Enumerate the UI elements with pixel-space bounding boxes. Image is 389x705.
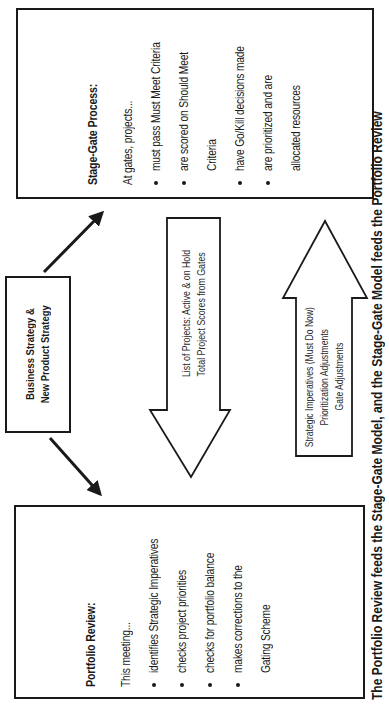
bullet-dot-icon [236, 683, 240, 687]
stage-gate-intro: At gates, projects... [119, 42, 137, 186]
portfolio-review-intro: This meeting... [117, 539, 135, 687]
business-strategy-line1: Business Strategy & [23, 309, 38, 401]
figure-caption: The Portfolio Review feeds the Stage-Gat… [367, 0, 389, 705]
bullet-dot-icon [180, 683, 184, 687]
portfolio-review-box: Portfolio Review: This meeting... identi… [14, 505, 365, 699]
stage-gate-bullet: must pass Must Meet Criteria [147, 10, 165, 185]
business-strategy-box: Business Strategy & New Product Strategy [5, 276, 71, 433]
up-arrow-line1: Strategic Imperatives (Must Do Now) [302, 307, 317, 447]
stage-gate-bullet: are prioritized and are allocated resour… [259, 10, 305, 185]
bullet-dot-icon [208, 683, 212, 687]
arrow-to-stage-gate-icon [44, 213, 102, 272]
up-arrow-line2: Prioritization Adjustments [317, 329, 332, 425]
down-arrow-line1: List of Projects: Active & on Hold [179, 250, 194, 377]
up-arrow-line3: Gate Adjustments [332, 343, 347, 411]
stage-gate-box: Stage-Gate Process: At gates, projects..… [16, 8, 374, 199]
bullet-dot-icon [266, 181, 270, 185]
portfolio-review-bullet: makes corrections to the Gating Scheme [229, 507, 275, 687]
stage-gate-bullet: have Go/Kill decisions made [231, 10, 249, 185]
up-arrow-label: Strategic Imperatives (Must Do Now) Prio… [296, 298, 352, 456]
bullet-dot-icon [152, 683, 156, 687]
bullet-dot-icon [182, 181, 186, 185]
bullet-dot-icon [238, 181, 242, 185]
business-strategy-line2: New Product Strategy [38, 306, 53, 404]
down-arrow-line2: Total Project Scores from Gates [194, 252, 209, 376]
portfolio-review-title: Portfolio Review: [82, 539, 100, 687]
figure-caption-text: The Portfolio Review feeds the Stage-Gat… [367, 98, 387, 700]
stage-gate-title: Stage-Gate Process: [84, 42, 102, 186]
portfolio-review-bullet: checks for portfolio balance [201, 507, 219, 687]
portfolio-review-bullet: identifies Strategic Imperatives [145, 507, 163, 687]
stage-gate-bullet: are scored on Should Meet Criteria [175, 10, 221, 185]
portfolio-review-bullet: checks project priorities [173, 507, 191, 687]
arrow-to-portfolio-review-icon [50, 438, 100, 494]
bullet-dot-icon [154, 181, 158, 185]
down-arrow-label: List of Projects: Active & on Hold Total… [167, 218, 220, 410]
